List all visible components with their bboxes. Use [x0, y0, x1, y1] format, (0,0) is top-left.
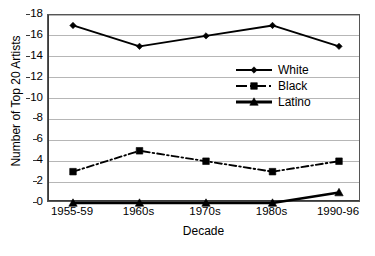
y-axis-tick-mark [33, 202, 37, 203]
y-axis-tick-mark [26, 77, 30, 78]
series-black [70, 147, 343, 174]
data-point-marker [269, 168, 276, 175]
x-axis-tick-label: 1990-96 [317, 205, 359, 218]
legend-label: Black [278, 79, 307, 93]
data-point-marker [136, 147, 143, 154]
y-axis-tick-mark [26, 35, 30, 36]
x-axis-tick-label: 1970s [189, 205, 220, 218]
y-axis-tick-label: 18 [30, 8, 43, 20]
y-axis-tick-label: 8 [37, 112, 43, 124]
data-point-marker [336, 43, 342, 49]
legend-marker-icon [234, 78, 274, 94]
y-axis-tick-label: 12 [30, 71, 43, 83]
y-axis-tick-label: 4 [37, 154, 43, 166]
line-chart: Number of Top 20 Artists 024681012141618… [0, 0, 375, 256]
x-axis-tick-label: 1955-59 [51, 205, 93, 218]
x-axis-tick-label: 1960s [123, 205, 154, 218]
y-axis-tick-label: 6 [37, 133, 43, 145]
y-axis-tick-mark [26, 56, 30, 57]
legend-label: Latino [278, 95, 311, 109]
legend-item-black[interactable]: Black [234, 78, 338, 94]
chart-legend: WhiteBlackLatino [234, 62, 338, 110]
legend-marker-icon [234, 62, 274, 78]
y-axis-tick-mark [33, 160, 37, 161]
data-point-marker [336, 158, 343, 165]
y-axis-tick-label: 0 [37, 196, 43, 208]
x-axis-title: Decade [47, 224, 360, 238]
y-axis-tick-label: 14 [30, 50, 43, 62]
y-axis-tick-mark [26, 98, 30, 99]
y-axis-tick-mark [33, 118, 37, 119]
data-point-marker [203, 33, 209, 39]
x-axis-tick-labels: 1955-591960s1970s1980s1990-96 [47, 205, 360, 221]
y-axis-tick-label: 10 [30, 92, 43, 104]
y-axis-tick-mark [26, 14, 30, 15]
legend-item-latino[interactable]: Latino [234, 94, 338, 110]
series-latino [69, 188, 343, 206]
legend-marker-icon [234, 94, 274, 110]
y-axis-tick-mark [33, 181, 37, 182]
data-point-marker [269, 22, 275, 28]
y-axis-tick-label: 16 [30, 29, 43, 41]
x-axis-tick-label: 1980s [256, 205, 287, 218]
series-white [70, 22, 342, 49]
y-axis-tick-labels: 024681012141618 [17, 14, 43, 202]
data-point-marker [203, 158, 210, 165]
data-point-marker [70, 22, 76, 28]
y-axis-tick-label: 2 [37, 175, 43, 187]
legend-label: White [278, 63, 309, 77]
data-point-marker [136, 43, 142, 49]
legend-item-white[interactable]: White [234, 62, 338, 78]
y-axis-tick-mark [33, 139, 37, 140]
data-point-marker [70, 168, 77, 175]
